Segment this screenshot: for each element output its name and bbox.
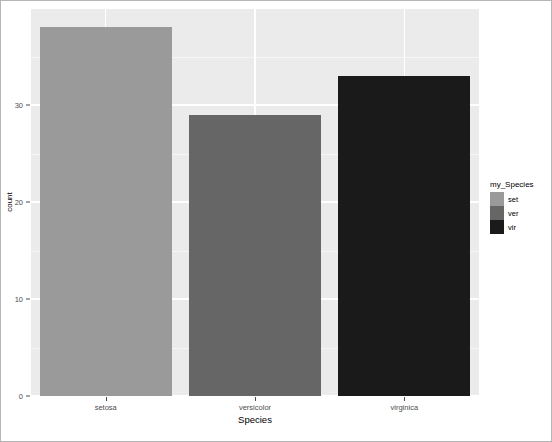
bar-virginica[interactable]: [338, 76, 470, 396]
y-tick-label: 0: [1, 392, 23, 401]
legend-swatch: [490, 220, 504, 234]
x-tick-label: setosa: [95, 403, 117, 412]
legend-key: [490, 220, 504, 234]
legend: my_Species setvervir: [490, 180, 548, 234]
y-tick-label: 30: [1, 101, 23, 110]
x-tick-label: virginica: [391, 403, 419, 412]
plot-panel: [31, 9, 479, 396]
legend-item[interactable]: vir: [490, 220, 548, 234]
bar-setosa[interactable]: [40, 27, 172, 396]
legend-title: my_Species: [490, 180, 548, 189]
ggplot-figure: count Species my_Species setvervir 01020…: [0, 0, 552, 442]
legend-swatch: [490, 206, 504, 220]
legend-key: [490, 206, 504, 220]
legend-item[interactable]: set: [490, 192, 548, 206]
y-tick-mark: [26, 396, 30, 397]
legend-items: setvervir: [490, 192, 548, 234]
bar-versicolor[interactable]: [189, 115, 321, 396]
y-tick-label: 10: [1, 295, 23, 304]
x-tick-mark: [255, 397, 256, 401]
y-tick-label: 20: [1, 198, 23, 207]
legend-label: vir: [508, 223, 516, 232]
y-tick-mark: [26, 299, 30, 300]
legend-label: ver: [508, 209, 518, 218]
x-tick-mark: [106, 397, 107, 401]
legend-key: [490, 192, 504, 206]
y-tick-mark: [26, 202, 30, 203]
x-axis-title: Species: [238, 414, 272, 425]
y-tick-mark: [26, 105, 30, 106]
x-tick-label: versicolor: [239, 403, 271, 412]
legend-label: set: [508, 195, 518, 204]
legend-item[interactable]: ver: [490, 206, 548, 220]
legend-swatch: [490, 192, 504, 206]
x-tick-mark: [404, 397, 405, 401]
